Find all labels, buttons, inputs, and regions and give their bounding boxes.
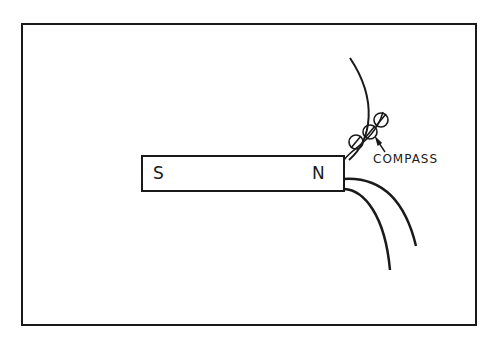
diagram-canvas	[0, 0, 499, 344]
north-pole-label: N	[312, 163, 325, 183]
field-line-upper-arc	[349, 58, 369, 160]
arrow-icon	[376, 138, 385, 152]
field-line-lower-outer	[344, 179, 416, 246]
field-line-lower-inner	[344, 189, 390, 270]
compass-label: COMPASS	[373, 152, 438, 166]
south-pole-label: S	[153, 163, 164, 183]
